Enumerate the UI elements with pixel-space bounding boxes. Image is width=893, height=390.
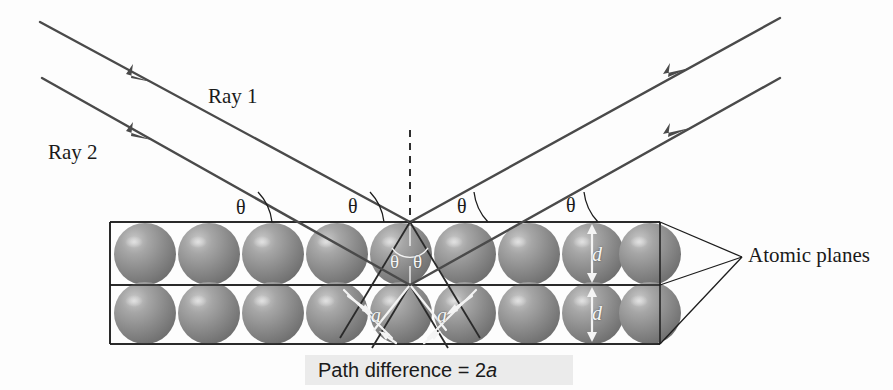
path-difference-caption: Path difference = 2a (318, 359, 497, 382)
path-segment-label-left: a (371, 305, 381, 325)
atom-sphere (306, 282, 368, 344)
atom-sphere (242, 223, 304, 285)
atom-sphere (178, 223, 240, 285)
atom-sphere (619, 282, 681, 344)
diagram-canvas (0, 0, 893, 390)
atom-sphere (114, 282, 176, 344)
caption-prefix-text: Path difference = 2 (318, 359, 486, 381)
theta-label-interior-right: θ (413, 252, 422, 271)
caption-symbol-text: a (486, 359, 497, 381)
atom-sphere (498, 282, 560, 344)
theta-label-reflected-ray1: θ (457, 196, 467, 216)
path-segment-label-right: a (437, 305, 447, 325)
theta-label-interior-left: θ (390, 252, 399, 271)
atom-sphere (178, 282, 240, 344)
theta-label-reflected-ray2: θ (566, 195, 576, 215)
ray-1-incident-line (40, 22, 410, 222)
theta-label-incident-ray2: θ (348, 196, 358, 216)
atomic-planes-label: Atomic planes (748, 245, 870, 266)
atom-sphere (498, 223, 560, 285)
ray-1-label: Ray 1 (208, 86, 258, 107)
ray-2-label: Ray 2 (48, 142, 98, 163)
atom-sphere (619, 223, 681, 285)
theta-label-incident-ray1: θ (236, 197, 246, 217)
ray-1-reflected-line (410, 18, 780, 222)
bragg-diffraction-figure: Ray 1 Ray 2 θ θ θ θ θ θ d d a a Atomic p… (0, 0, 893, 390)
d-spacing-label-upper: d (592, 244, 602, 264)
atom-sphere (242, 282, 304, 344)
atom-sphere (114, 223, 176, 285)
d-spacing-label-lower: d (592, 303, 602, 323)
